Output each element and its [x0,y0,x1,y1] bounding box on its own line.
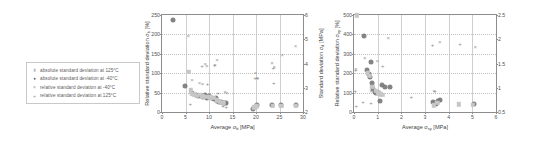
data-point-plus: + [410,94,414,100]
data-point-cross: × [281,52,285,58]
x-tick-label: 5 [184,114,187,120]
data-point-circle [387,85,392,90]
chart-right: 012345601002003004005000.511.522.5××××××… [330,0,535,144]
x-tick-label: 5 [471,114,474,120]
data-point-circle [183,83,188,88]
data-point-cross: × [363,55,367,61]
gridline-vertical [186,15,187,112]
x-tick-label: 25 [277,114,283,120]
y-tickmark [160,112,162,113]
data-point-plus: + [361,99,365,105]
x-tick-label: 1 [376,114,379,120]
y-tickmark [160,93,162,94]
figure-root: absolute standard deviation at 125°Cabso… [0,0,535,144]
data-point-square [367,74,371,78]
y-tick-label: 250 [151,12,160,18]
y-tick-label: 0 [157,109,160,115]
data-point-plus: + [458,41,462,47]
x-tick-label: 20 [253,114,259,120]
gridline-vertical [256,15,257,112]
y-tick-label: 200 [151,31,160,37]
data-point-cross: × [225,90,229,96]
data-point-cross: × [473,44,477,50]
square-marker-icon [29,66,40,74]
x-tick-label: 4 [447,114,450,120]
legend-item-1: absolute standard deviation at -40°C [29,75,136,84]
data-point-square [381,93,385,97]
legend-item-label: relative standard deviation at 125°C [40,93,116,98]
legend-item-2: ×relative standard deviation at -40°C [29,83,136,92]
gridline-horizontal [354,73,496,74]
y2-tick-label: 3 [305,85,308,91]
y2-axis-title-left: Standard deviation σd [MPa] [318,14,325,113]
gridline-vertical [425,15,426,112]
gridline-vertical [280,15,281,112]
x-tick-label: 0 [353,114,356,120]
data-point-plus: + [355,103,359,109]
data-point-square [187,70,191,74]
data-point-plus: + [369,100,373,106]
data-point-cross: × [205,63,209,69]
legend-item-label: absolute standard deviation at 125°C [40,68,119,73]
x-tick-label: 2 [400,114,403,120]
data-point-square [456,102,460,106]
y-tick-label: 300 [343,51,352,57]
y-tick-label: 50 [154,90,160,96]
gridline-vertical [233,15,234,112]
circle-marker-icon [29,75,40,83]
data-point-plus: + [433,88,437,94]
data-point-circle [171,18,176,23]
data-point-cross: × [375,58,379,64]
data-point-plus: + [225,104,229,110]
y-tick-label: 0 [349,109,352,115]
y-tickmark [352,112,354,113]
x-tick-label: 0 [161,114,164,120]
x-tick-label: 6 [495,114,498,120]
plot-area-right: 012345601002003004005000.511.522.5××××××… [353,14,497,113]
x-axis-title-right: Average σxy [MPa] [353,124,497,131]
legend-item-label: relative standard deviation at -40°C [40,85,115,90]
data-point-cross: × [201,81,205,87]
legend-item-0: absolute standard deviation at 125°C [29,66,136,75]
gridline-horizontal [162,34,303,35]
gridline-vertical [472,15,473,112]
gridline-horizontal [162,73,303,74]
data-point-square [294,104,298,108]
y-tick-label: 100 [151,70,160,76]
data-point-circle [377,99,382,104]
data-point-square [355,13,359,17]
y-tick-label: 400 [343,31,352,37]
data-point-plus: + [353,88,357,94]
plus-marker-icon: + [29,92,40,100]
data-point-plus: + [213,62,217,68]
y2-tick-label: 2.5 [498,12,505,18]
data-point-square [271,104,275,108]
data-point-cross: × [190,77,194,83]
y2-tick-label: 2 [498,36,501,42]
data-point-plus: + [431,42,435,48]
y2-tick-label: 4 [305,61,308,67]
gridline-horizontal [354,54,496,55]
data-point-cross: × [187,33,191,39]
data-point-plus: + [272,80,276,86]
y-tick-label: 100 [343,90,352,96]
y-axis-title-left: Relative standard deviation σb [%] [144,14,151,113]
data-point-plus: + [200,63,204,69]
chart-left: 05101520253005010015020025023456××××××××… [140,0,340,144]
data-point-cross: × [369,88,373,94]
data-point-cross: × [438,39,442,45]
data-point-plus: + [256,75,260,81]
plot-area-left: 05101520253005010015020025023456××××××××… [161,14,304,113]
data-point-square [254,104,258,108]
data-point-cross: × [294,43,298,49]
data-point-square [471,102,475,106]
y2-tick-label: 5 [305,36,308,42]
gridline-horizontal [162,93,303,94]
data-point-square [279,104,283,108]
data-point-circle [361,33,366,38]
y-tick-label: 200 [343,70,352,76]
y-axis-title-right: Relative standard deviation σxy [%] [334,14,341,113]
y2-tick-label: 1 [498,85,501,91]
gridline-horizontal [354,34,496,35]
x-tick-label: 10 [206,114,212,120]
